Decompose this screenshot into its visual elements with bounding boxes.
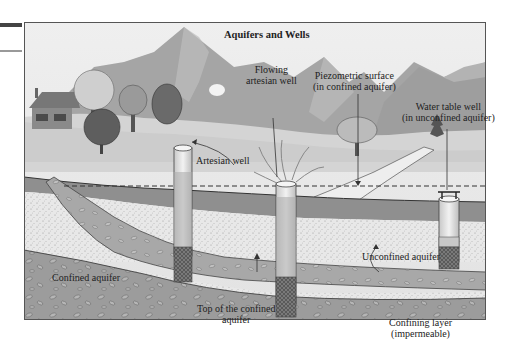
label-confined-aquifer: Confined aquifer [52,272,120,283]
edge-mark-top [0,23,22,27]
label-piezometric-surface: Piezometric surface (in confined aquifer… [313,70,396,92]
label-top-of-confined-aquifer: Top of the confined aquifer [197,303,275,325]
edge-mark-bottom [0,50,22,52]
label-confining-layer: Confining layer (impermeable) [389,317,452,339]
diagram-title: Aquifers and Wells [224,29,310,40]
label-water-table-well: Water table well (in unconfined aquifer) [402,101,495,123]
label-unconfined-aquifer: Unconfined aquifer [362,251,440,262]
label-artesian-well: Artesian well [196,155,250,166]
label-flowing-artesian-well: Flowing artesian well [246,64,297,86]
water-table-well-pipe [438,192,460,269]
aquifer-diagram: Aquifers and Wells Flowing artesian well… [24,22,486,320]
artesian-well-pipe [174,145,192,282]
